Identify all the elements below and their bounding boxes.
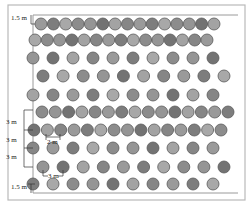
plant-circle	[66, 34, 78, 46]
plant-circle	[107, 178, 119, 190]
plant-circle	[147, 89, 159, 101]
plant-circle	[140, 34, 152, 46]
plant-circle	[60, 18, 72, 30]
plant-circle	[156, 106, 168, 118]
plant-circle	[129, 106, 141, 118]
plant-circle	[68, 124, 80, 136]
plant-circle	[63, 106, 75, 118]
plant-circle	[159, 18, 171, 30]
plant-circle	[67, 142, 79, 154]
plant-circle	[169, 106, 181, 118]
plant-circle	[116, 106, 128, 118]
plant-circle	[146, 18, 158, 30]
plant-circle	[187, 89, 199, 101]
plant-circle	[207, 142, 219, 154]
plant-circle	[167, 142, 179, 154]
plant-circle	[122, 124, 134, 136]
plant-circle	[198, 161, 210, 173]
plant-circle	[29, 34, 41, 46]
plant-circle	[81, 124, 93, 136]
plant-circle	[89, 106, 101, 118]
plant-circle	[158, 70, 170, 82]
plant-circle	[178, 70, 190, 82]
plant-circle	[162, 124, 174, 136]
plant-circle	[47, 18, 59, 30]
plant-circle	[55, 124, 67, 136]
plant-circle	[135, 124, 147, 136]
plant-circle	[207, 52, 219, 64]
plant-circle	[167, 178, 179, 190]
plant-circle	[77, 70, 89, 82]
plant-circle	[148, 124, 160, 136]
top-margin-label: 1.5 m	[11, 14, 28, 22]
plant-circle	[109, 18, 121, 30]
plant-circle	[167, 89, 179, 101]
plant-circle	[97, 18, 109, 30]
plant-circle	[187, 178, 199, 190]
plant-circle	[27, 89, 39, 101]
plant-circle	[189, 34, 201, 46]
plant-circle	[218, 161, 230, 173]
plant-circle	[127, 89, 139, 101]
plant-circle	[90, 34, 102, 46]
plant-circle	[76, 106, 88, 118]
plant-circle	[218, 70, 230, 82]
plant-circle	[117, 161, 129, 173]
plant-circle	[107, 52, 119, 64]
plant-circle	[97, 161, 109, 173]
plant-circle	[209, 106, 221, 118]
plant-circle	[78, 34, 90, 46]
plant-circle	[97, 70, 109, 82]
plant-circle	[138, 70, 150, 82]
plant-circle	[188, 124, 200, 136]
plant-circle	[176, 34, 188, 46]
plant-circle	[87, 142, 99, 154]
plant-circle	[198, 70, 210, 82]
plant-circle	[222, 106, 234, 118]
plant-circle	[134, 18, 146, 30]
plant-circle	[77, 161, 89, 173]
plant-circle	[117, 70, 129, 82]
bottom-margin-label: 1.5 m	[11, 183, 28, 191]
plant-circle	[147, 178, 159, 190]
plant-circle	[187, 142, 199, 154]
plant-circle	[182, 106, 194, 118]
plant-circle	[207, 89, 219, 101]
plant-circle	[54, 34, 66, 46]
plant-circle	[195, 106, 207, 118]
plant-circle	[183, 18, 195, 30]
plant-circle	[202, 124, 214, 136]
plant-circle	[67, 178, 79, 190]
plant-circle	[115, 34, 127, 46]
plant-circle	[87, 89, 99, 101]
plant-circle	[187, 52, 199, 64]
plant-circle	[208, 18, 220, 30]
plant-circle	[27, 52, 39, 64]
plant-circle	[41, 124, 53, 136]
plant-circle	[47, 52, 59, 64]
plant-circle	[87, 52, 99, 64]
plant-circle	[49, 106, 61, 118]
plant-circle	[107, 89, 119, 101]
plant-circle	[196, 18, 208, 30]
plant-circle	[147, 52, 159, 64]
plant-circle	[67, 52, 79, 64]
plant-circle	[142, 106, 154, 118]
plant-circle	[67, 89, 79, 101]
plant-circle	[36, 106, 48, 118]
plant-circle	[103, 34, 115, 46]
plant-circle	[47, 89, 59, 101]
plant-circle	[37, 70, 49, 82]
plant-circle	[87, 178, 99, 190]
plant-circle	[171, 18, 183, 30]
row-spacing-label-2: 3 m	[6, 136, 17, 144]
plant-circle	[207, 178, 219, 190]
plant-circle	[127, 34, 139, 46]
plant-circle	[102, 106, 114, 118]
plant-circle	[152, 34, 164, 46]
dense-spacing-label: 2 m	[47, 138, 58, 146]
plant-circle	[138, 161, 150, 173]
plant-circle	[72, 18, 84, 30]
plant-circle	[127, 52, 139, 64]
row-spacing-label-1: 3 m	[6, 118, 17, 126]
